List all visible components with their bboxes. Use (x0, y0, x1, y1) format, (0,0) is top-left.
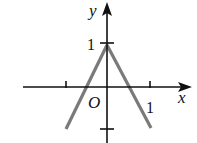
function-graph: y x O 1 1 (0, 0, 197, 143)
origin-label: O (88, 93, 100, 112)
y-axis (100, 2, 114, 143)
x-tick-label: 1 (146, 99, 154, 116)
y-tick-label: 1 (87, 36, 95, 53)
y-axis-label: y (87, 1, 97, 20)
x-axis-label: x (177, 88, 186, 107)
